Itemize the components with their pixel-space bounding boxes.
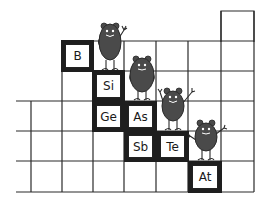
creature-icon <box>188 120 227 160</box>
creatures-layer <box>0 0 265 208</box>
creature-icon <box>130 56 155 100</box>
creature-icon <box>99 23 128 70</box>
periodic-table-illustration: B Si Ge As Sb Te At <box>0 0 265 208</box>
creature-icon <box>158 88 195 130</box>
